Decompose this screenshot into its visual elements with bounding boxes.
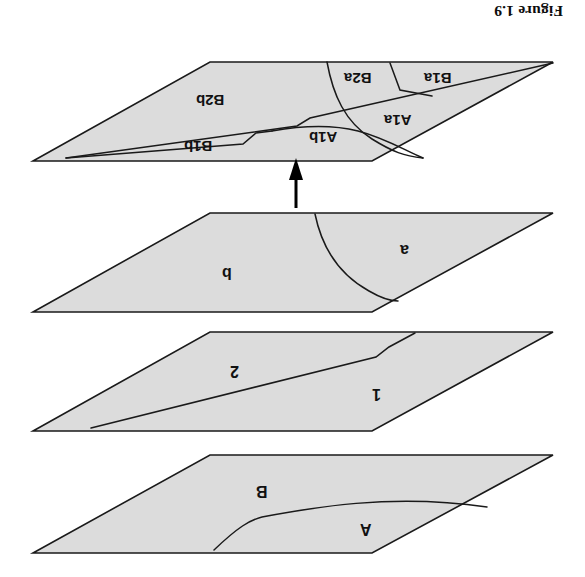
second-plane-label-b: b [222,265,232,281]
third-plane-surface [33,332,553,431]
upward-arrow [289,158,303,208]
second-plane [33,213,553,312]
top-plane-label-b1a: B1a [424,71,452,86]
bottom-plane [33,455,553,553]
top-plane-surface [33,62,553,161]
third-plane-label-2: 2 [230,363,239,379]
second-plane-surface [33,213,553,312]
top-plane-label-b2b: B2b [196,93,224,108]
top-plane-label-a1b: A1b [309,130,337,145]
bottom-plane-surface [33,455,553,553]
third-plane-label-1: 1 [372,386,381,402]
top-plane-label-b1b: B1b [184,139,212,154]
top-plane-label-b2a: B2a [344,71,372,86]
top-plane [33,62,553,161]
third-plane [33,332,553,431]
bottom-plane-label-B: B [256,483,268,499]
plane-stack-graphic [0,0,585,577]
second-plane-label-a: a [400,242,409,258]
figure-canvas: Figure 1.9 [0,0,585,577]
bottom-plane-label-A: A [360,521,372,537]
top-plane-label-a1a: A1a [384,113,412,128]
